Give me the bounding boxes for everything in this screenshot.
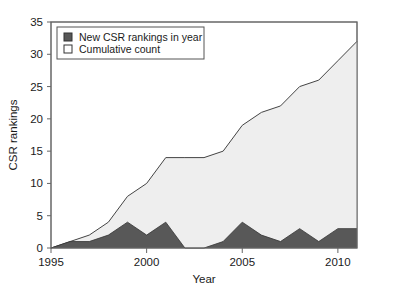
x-axis-tick-label: 2010 bbox=[325, 256, 351, 268]
chart-canvas: 05101520253035 1995200020052010 CSR rank… bbox=[0, 0, 404, 288]
legend-swatch-cumulative bbox=[64, 45, 72, 53]
y-axis-tick-label: 30 bbox=[30, 48, 43, 60]
x-axis-tick-label: 2000 bbox=[134, 256, 160, 268]
y-axis-tick-label: 35 bbox=[30, 16, 43, 28]
y-axis-tick-label: 25 bbox=[30, 81, 43, 93]
chart-legend: New CSR rankings in year Cumulative coun… bbox=[57, 27, 204, 59]
x-axis-tick-label: 2005 bbox=[229, 256, 255, 268]
legend-label-new-rankings: New CSR rankings in year bbox=[79, 31, 203, 43]
y-axis-tick-label: 10 bbox=[30, 177, 43, 189]
legend-swatch-new-rankings bbox=[64, 33, 72, 41]
y-axis-tick-label: 5 bbox=[37, 210, 43, 222]
y-axis-tick-label: 0 bbox=[37, 242, 43, 254]
y-axis-tick-label: 15 bbox=[30, 145, 43, 157]
x-axis-tick-label: 1995 bbox=[38, 256, 64, 268]
x-axis-title: Year bbox=[192, 273, 215, 285]
legend-label-cumulative: Cumulative count bbox=[79, 43, 160, 55]
y-axis-title: CSR rankings bbox=[7, 99, 19, 170]
chart-figure: 05101520253035 1995200020052010 CSR rank… bbox=[0, 0, 404, 288]
y-axis-tick-label: 20 bbox=[30, 113, 43, 125]
